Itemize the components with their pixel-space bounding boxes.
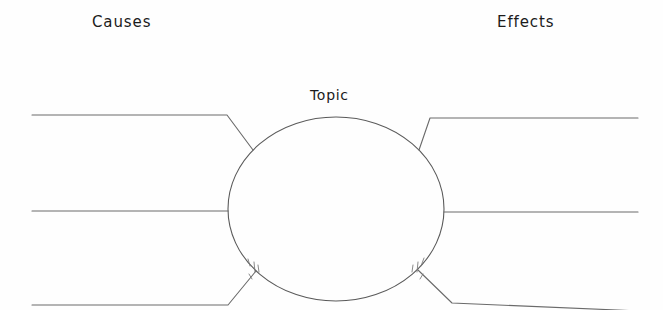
connector-tick-marks: [248, 258, 424, 279]
graphic-organizer-worksheet: Causes Effects Topic: [0, 0, 663, 310]
causes-heading: Causes: [92, 13, 151, 31]
effect-lines-group: [418, 118, 663, 310]
cause-write-line-1[interactable]: [32, 115, 253, 150]
cause-lines-group: [32, 115, 256, 305]
effect-write-line-3[interactable]: [418, 270, 663, 310]
cause-write-line-3[interactable]: [32, 271, 256, 305]
topic-ellipse: [228, 117, 444, 301]
topic-label: Topic: [310, 87, 349, 103]
organizer-drawing: [0, 0, 663, 310]
effect-write-line-1[interactable]: [419, 118, 638, 150]
effects-heading: Effects: [497, 13, 555, 31]
